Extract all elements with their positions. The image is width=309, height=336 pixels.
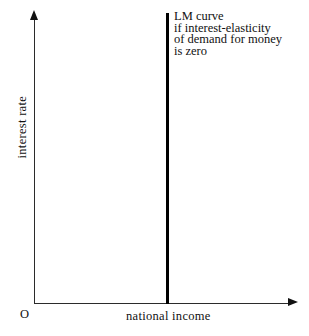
origin-label: O bbox=[20, 308, 29, 321]
y-axis-line bbox=[34, 18, 35, 304]
y-axis-arrow-icon bbox=[30, 10, 38, 20]
y-axis-label: interest rate bbox=[15, 87, 29, 167]
x-axis-line bbox=[34, 303, 290, 304]
annotation-line-4: is zero bbox=[174, 46, 282, 58]
lm-curve-line bbox=[166, 13, 169, 304]
lm-curve-figure: LM curve if interest-elasticity of deman… bbox=[0, 0, 309, 336]
x-axis-arrow-icon bbox=[288, 298, 298, 306]
lm-curve-annotation: LM curve if interest-elasticity of deman… bbox=[174, 11, 282, 57]
x-axis-label: national income bbox=[126, 309, 211, 323]
